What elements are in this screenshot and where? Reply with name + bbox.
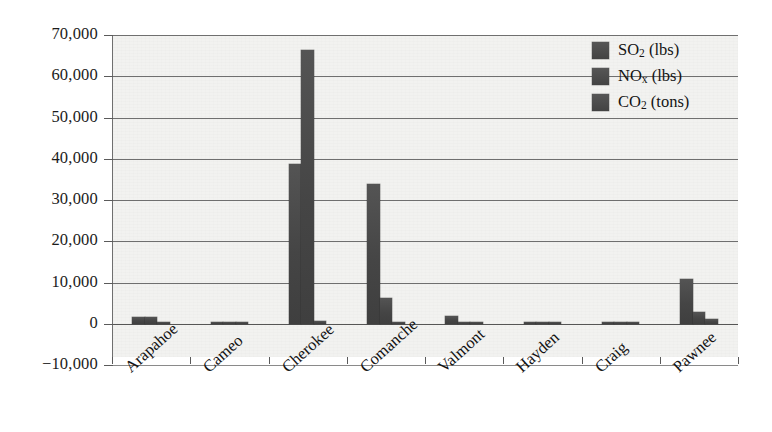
x-tick (738, 357, 739, 364)
paper-texture-negative (113, 324, 738, 357)
x-tick (582, 357, 583, 364)
bar (458, 322, 471, 324)
bar (536, 322, 549, 324)
x-tick (190, 357, 191, 364)
legend-swatch (592, 42, 609, 59)
legend-row: CO2 (tons) (592, 92, 689, 113)
y-axis-label: 60,000 (51, 65, 98, 85)
plot-area-negative (112, 324, 738, 357)
y-tick--10000 (104, 365, 113, 366)
y-axis-label: 70,000 (51, 24, 98, 44)
legend-label: CO2 (tons) (618, 94, 689, 112)
x-tick (660, 357, 661, 364)
x-tick (269, 357, 270, 364)
bar (145, 317, 158, 324)
gridline-0 (112, 324, 738, 325)
x-tick (112, 357, 113, 364)
bar (132, 317, 145, 324)
bar (614, 322, 627, 324)
bar (693, 312, 706, 324)
bar (549, 322, 562, 324)
y-tick-0 (104, 324, 113, 325)
x-tick (425, 357, 426, 364)
y-axis-label: 0 (90, 313, 98, 333)
bar (705, 319, 718, 324)
bar (524, 322, 537, 324)
bar (211, 322, 224, 324)
bar-group (132, 35, 170, 324)
y-axis-label: −10,000 (42, 354, 98, 374)
bar (236, 322, 249, 324)
bar (289, 164, 302, 324)
legend-row: NOx (lbs) (592, 66, 689, 87)
bar (380, 298, 393, 324)
bar-group (445, 35, 483, 324)
x-tick (503, 357, 504, 364)
bar-group (367, 35, 405, 324)
bar (470, 322, 483, 324)
bar (680, 279, 693, 324)
y-axis-label: 20,000 (51, 230, 98, 250)
y-axis-label: 30,000 (51, 189, 98, 209)
legend-label: NOx (lbs) (618, 68, 682, 86)
bar (602, 322, 615, 324)
bar (367, 184, 380, 324)
bar-group (524, 35, 562, 324)
legend-swatch (592, 68, 609, 85)
y-axis-label: 10,000 (51, 272, 98, 292)
y-axis-label: 40,000 (51, 148, 98, 168)
legend-swatch (592, 94, 609, 111)
bar-chart: 70,00060,00050,00040,00030,00020,00010,0… (0, 0, 772, 432)
legend-row: SO2 (lbs) (592, 40, 689, 61)
legend-label: SO2 (lbs) (618, 42, 679, 60)
bar (301, 50, 314, 324)
bar (627, 322, 640, 324)
bar-group (211, 35, 249, 324)
x-tick (347, 357, 348, 364)
bar-group (289, 35, 327, 324)
y-axis-label: 50,000 (51, 107, 98, 127)
legend: SO2 (lbs)NOx (lbs)CO2 (tons) (592, 40, 689, 113)
bar (223, 322, 236, 324)
bar (445, 316, 458, 324)
